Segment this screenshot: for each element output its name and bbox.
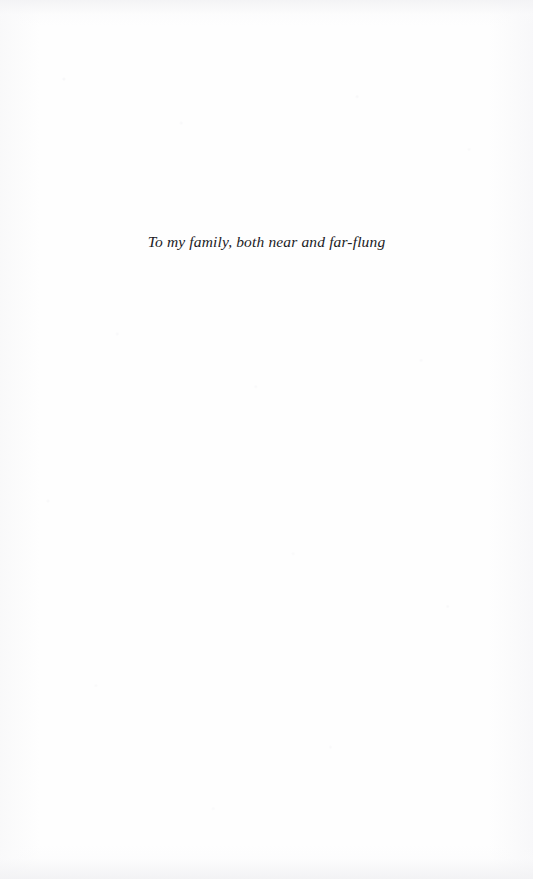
scan-edge-artifact-top <box>0 0 533 26</box>
scanned-page: To my family, both near and far-flung <box>0 0 533 879</box>
scan-speckle-noise <box>0 0 533 879</box>
scan-edge-artifact-bottom <box>0 845 533 879</box>
dedication-text: To my family, both near and far-flung <box>148 232 386 252</box>
dedication-block: To my family, both near and far-flung <box>0 232 533 252</box>
